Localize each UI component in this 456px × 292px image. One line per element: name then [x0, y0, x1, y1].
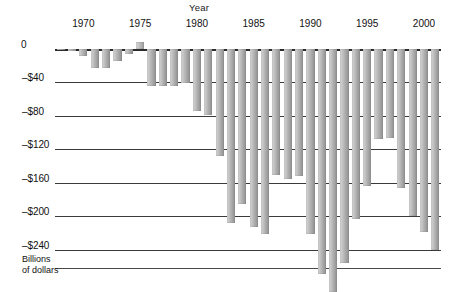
bar: [227, 49, 235, 223]
bar: [284, 49, 292, 179]
bar: [340, 49, 348, 263]
bar: [272, 49, 280, 175]
bar: [68, 49, 76, 52]
gridline-neg80: [55, 116, 441, 117]
bar: [159, 49, 167, 87]
bar: [409, 49, 417, 217]
y-axis-tick-label: –$240: [22, 240, 49, 251]
bar: [204, 49, 212, 115]
bar: [261, 49, 269, 234]
gridline-neg200: [55, 216, 441, 217]
bar: [136, 42, 144, 49]
bar: [57, 49, 65, 51]
bar: [125, 49, 133, 54]
bar: [431, 49, 439, 250]
y-axis-tick-label: 0: [21, 39, 26, 50]
x-axis-tick-label: 1980: [186, 18, 208, 29]
bar: [374, 49, 382, 140]
chart-baseline-rule: [55, 268, 441, 269]
y-axis-tick-label: –$160: [22, 173, 49, 184]
bar: [181, 49, 189, 83]
y-axis-tick-label: –$200: [22, 206, 49, 217]
y-axis-caption-line1: Billions: [22, 254, 59, 265]
gridline-neg120: [55, 149, 441, 150]
bar: [329, 49, 337, 292]
y-axis-tick-label: –$40: [22, 72, 44, 83]
chart-title: Year: [189, 2, 209, 13]
bar: [113, 49, 121, 62]
y-axis-caption-line2: of dollars: [22, 265, 59, 276]
x-axis-tick-label: 2000: [413, 18, 435, 29]
gridline-neg240: [55, 250, 441, 251]
bar: [147, 49, 155, 87]
bar: [318, 49, 326, 275]
bar: [91, 49, 99, 68]
y-axis-tick-label: –$120: [22, 139, 49, 150]
bar: [216, 49, 224, 156]
x-axis-tick-label: 1970: [72, 18, 94, 29]
bar: [386, 49, 394, 139]
y-axis-caption: Billions of dollars: [22, 254, 59, 275]
gridline-neg40: [55, 82, 441, 83]
x-axis-tick-label: 1990: [299, 18, 321, 29]
bar: [170, 49, 178, 87]
x-axis-tick-label: 1985: [243, 18, 265, 29]
bar: [79, 49, 87, 57]
bar: [352, 49, 360, 219]
bar: [295, 49, 303, 176]
bar: [397, 49, 405, 188]
bar: [238, 49, 246, 204]
plot-area: 1970197519801985199019952000: [55, 32, 441, 250]
bar: [250, 49, 258, 227]
x-axis-tick-label: 1975: [129, 18, 151, 29]
bar: [420, 49, 428, 232]
x-axis-tick-label: 1995: [356, 18, 378, 29]
y-axis-tick-label: –$80: [22, 106, 44, 117]
bar: [306, 49, 314, 234]
bar: [193, 49, 201, 111]
bar: [363, 49, 371, 187]
bar: [102, 49, 110, 68]
gridline-neg160: [55, 183, 441, 184]
